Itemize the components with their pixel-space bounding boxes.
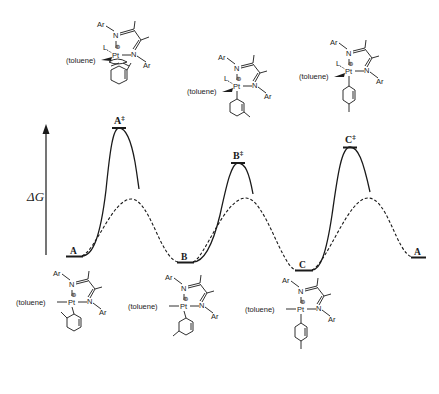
solid-curves [82, 128, 370, 270]
level-a-start: A [66, 246, 83, 257]
svg-text:⊕: ⊕ [183, 295, 188, 302]
level-a-end: A [411, 247, 426, 258]
svg-text:⊕: ⊕ [348, 60, 353, 67]
svg-text:Pt: Pt [68, 298, 76, 307]
svg-text:Ar: Ar [218, 53, 226, 62]
state-label-a-ts: A‡ [114, 114, 125, 126]
svg-text:Ar: Ar [143, 61, 151, 70]
svg-text:L: L [224, 74, 228, 83]
solid-curve-c [312, 147, 370, 270]
svg-text:N: N [113, 31, 118, 40]
level-c: C [295, 260, 313, 271]
svg-text:N: N [346, 49, 351, 58]
arrow-up-icon [43, 124, 50, 134]
svg-text:Ar: Ar [328, 315, 336, 324]
svg-text:N: N [199, 301, 204, 310]
svg-text:Ar: Ar [165, 273, 173, 282]
svg-text:⊕: ⊕ [236, 75, 241, 82]
svg-text:(toluene): (toluene) [128, 302, 158, 311]
svg-text:(toluene): (toluene) [245, 305, 275, 314]
dashed-curve [82, 198, 412, 270]
svg-text:(toluene): (toluene) [66, 56, 96, 65]
svg-text:Ar: Ar [53, 269, 61, 278]
svg-text:(toluene): (toluene) [16, 298, 46, 307]
svg-text:Pt: Pt [345, 67, 353, 76]
state-label-c: C [299, 260, 306, 270]
structure-b-ts: Ar N N Ar ⊕ Pt L (toluene) [187, 53, 272, 117]
svg-text:⊕: ⊕ [71, 291, 76, 298]
state-label-c-ts: C‡ [345, 133, 356, 145]
svg-text:N: N [252, 81, 257, 90]
delta-g-axis: ΔG [26, 124, 50, 255]
svg-text:⊕: ⊕ [115, 43, 120, 50]
svg-text:L: L [103, 43, 107, 52]
svg-text:N: N [131, 50, 136, 59]
svg-text:N: N [87, 297, 92, 306]
svg-text:Ar: Ar [330, 38, 338, 47]
level-b: B [177, 252, 194, 263]
level-c-ts: C‡ [343, 133, 357, 148]
svg-text:Ar: Ar [97, 20, 105, 29]
solid-curve-b [193, 163, 253, 262]
svg-text:N: N [316, 304, 321, 313]
svg-text:N: N [69, 280, 74, 289]
state-label-a-end: A [414, 247, 421, 257]
energy-diagram: ΔG A A‡ B B‡ C C‡ A Ar N [0, 0, 439, 394]
axis-label: ΔG [26, 189, 45, 204]
structure-a: Ar N N Ar ⊕ Pt (toluene) [16, 269, 107, 331]
svg-text:Ar: Ar [211, 312, 219, 321]
svg-text:Ar: Ar [282, 276, 290, 285]
svg-text:(toluene): (toluene) [299, 72, 329, 81]
level-a-ts: A‡ [112, 114, 126, 128]
svg-text:L: L [336, 59, 340, 68]
svg-text:Pt: Pt [233, 82, 241, 91]
svg-text:N: N [364, 66, 369, 75]
structure-c-ts: Ar N N Ar ⊕ Pt L (toluene) [299, 38, 384, 112]
structure-b: Ar N N Ar ⊕ Pt (toluene) [128, 273, 219, 336]
state-label-b: B [181, 252, 188, 262]
state-label-b-ts: B‡ [233, 149, 244, 161]
svg-text:Pt: Pt [180, 302, 188, 311]
svg-text:Ar: Ar [264, 92, 272, 101]
state-label-a: A [70, 246, 77, 256]
svg-text:N: N [298, 287, 303, 296]
solid-curve-a [82, 128, 139, 256]
level-b-ts: B‡ [231, 149, 245, 163]
svg-text:N: N [234, 64, 239, 73]
svg-text:⊕: ⊕ [300, 298, 305, 305]
structure-a-ts: Ar N N Ar ⊕ Pt L (toluene) [66, 20, 151, 84]
svg-text:Ar: Ar [376, 77, 384, 86]
svg-text:Ar: Ar [99, 308, 107, 317]
svg-text:N: N [181, 284, 186, 293]
svg-text:(toluene): (toluene) [187, 87, 217, 96]
svg-text:Pt: Pt [297, 305, 305, 314]
structure-c: Ar N N Ar ⊕ Pt (toluene) [245, 276, 336, 349]
